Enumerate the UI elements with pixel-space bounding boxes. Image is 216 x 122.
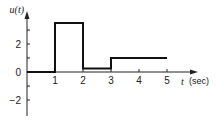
x-tick-label: 5 xyxy=(164,75,170,86)
y-tick-label: 0 xyxy=(15,67,21,78)
signal-line xyxy=(27,23,167,72)
y-tick-label: 2 xyxy=(15,39,21,50)
y-tick-label: −2 xyxy=(10,95,22,106)
x-tick-label: 4 xyxy=(136,75,142,86)
y-axis-arrow-icon xyxy=(25,11,30,19)
x-axis-arrow-icon xyxy=(190,70,198,75)
x-tick-label: 3 xyxy=(108,75,114,86)
x-tick-label: 2 xyxy=(80,75,86,86)
x-axis-unit: (sec) xyxy=(189,76,209,86)
step-function-chart: 12345−202 u(t) t (sec) xyxy=(0,0,216,122)
x-tick-label: 1 xyxy=(52,75,58,86)
y-axis-label: u(t) xyxy=(10,4,25,16)
signal-trace xyxy=(27,23,167,72)
x-axis-label: t xyxy=(181,76,184,87)
